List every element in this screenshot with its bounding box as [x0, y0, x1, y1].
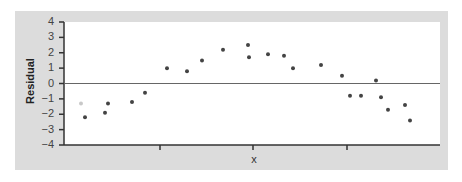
data-point — [340, 74, 344, 78]
data-points — [79, 43, 412, 122]
data-point — [83, 115, 87, 119]
data-point — [379, 95, 383, 99]
data-point — [247, 55, 251, 59]
data-point — [200, 58, 204, 62]
data-point — [374, 78, 378, 82]
data-point — [291, 66, 295, 70]
data-point — [359, 94, 363, 98]
data-point — [246, 43, 250, 47]
data-point — [143, 91, 147, 95]
data-point — [386, 108, 390, 112]
data-point — [319, 63, 323, 67]
data-point — [130, 100, 134, 104]
data-point — [403, 103, 407, 107]
scatter-chart — [0, 0, 462, 182]
data-point — [408, 118, 412, 122]
data-point — [103, 111, 107, 115]
data-point — [221, 48, 225, 52]
data-point — [282, 54, 286, 58]
data-point — [266, 52, 270, 56]
axes — [59, 22, 440, 150]
data-point — [165, 66, 169, 70]
data-point — [348, 94, 352, 98]
data-point — [185, 69, 189, 73]
data-point — [79, 101, 83, 105]
data-point — [106, 101, 110, 105]
